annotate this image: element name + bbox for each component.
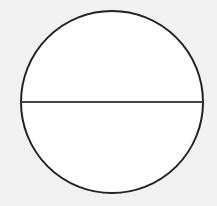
diagram-canvas: [0, 0, 217, 206]
